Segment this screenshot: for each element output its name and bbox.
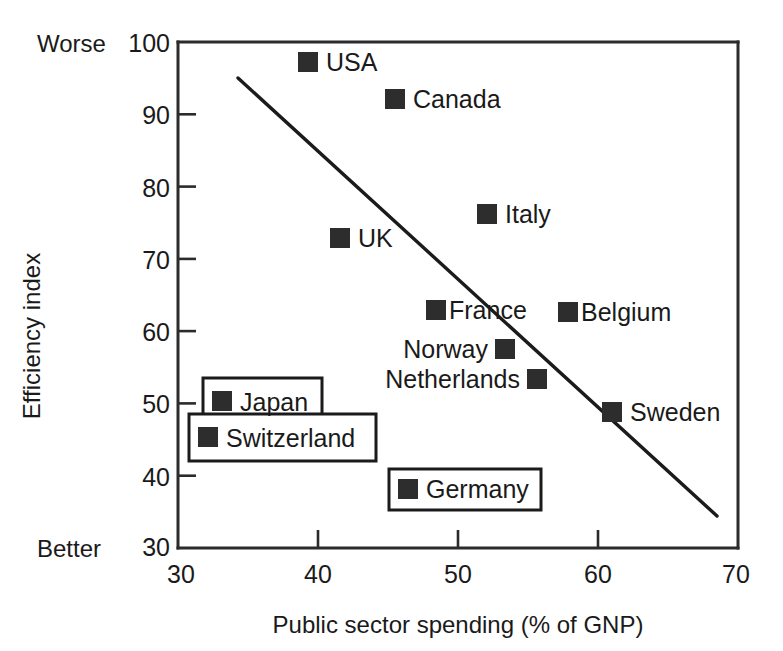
point-label-switzerland: Switzerland <box>226 424 355 452</box>
marker-usa[interactable] <box>298 52 318 72</box>
x-tick-label-50: 50 <box>444 560 472 588</box>
x-axis-tick-labels: 30 40 50 60 70 <box>167 560 750 588</box>
axis-annotation-worse: Worse <box>37 30 106 57</box>
data-point-uk[interactable]: UK <box>330 224 393 252</box>
point-label-usa: USA <box>326 48 378 76</box>
efficiency-vs-spending-chart: 100 90 80 70 60 50 40 30 30 40 50 60 70 … <box>0 0 783 651</box>
x-axis-title: Public sector spending (% of GNP) <box>273 611 644 638</box>
y-axis-title: Efficiency index <box>18 253 45 419</box>
x-tick-label-30: 30 <box>167 560 195 588</box>
data-point-netherlands[interactable]: Netherlands <box>385 365 547 393</box>
data-points: USA Canada Italy UK France Belgium <box>198 48 720 503</box>
marker-norway[interactable] <box>495 339 515 359</box>
marker-belgium[interactable] <box>558 302 578 322</box>
y-tick-label-90: 90 <box>142 101 170 129</box>
y-tick-label-100: 100 <box>128 29 170 57</box>
marker-japan[interactable] <box>212 391 232 411</box>
marker-uk[interactable] <box>330 228 350 248</box>
point-label-norway: Norway <box>403 335 488 363</box>
y-tick-label-50: 50 <box>142 390 170 418</box>
scatter-plot-svg: 100 90 80 70 60 50 40 30 30 40 50 60 70 … <box>0 0 783 651</box>
marker-canada[interactable] <box>385 89 405 109</box>
point-label-netherlands: Netherlands <box>385 365 520 393</box>
data-point-belgium[interactable]: Belgium <box>558 298 671 326</box>
point-label-japan: Japan <box>240 388 308 416</box>
y-tick-label-30: 30 <box>142 533 170 561</box>
x-tick-label-70: 70 <box>722 560 750 588</box>
point-label-uk: UK <box>358 224 393 252</box>
data-point-usa[interactable]: USA <box>298 48 378 76</box>
marker-italy[interactable] <box>477 204 497 224</box>
marker-switzerland[interactable] <box>198 427 218 447</box>
point-label-italy: Italy <box>505 200 551 228</box>
data-point-france[interactable]: France <box>426 296 527 324</box>
y-tick-label-40: 40 <box>142 463 170 491</box>
data-point-canada[interactable]: Canada <box>385 85 501 113</box>
marker-germany[interactable] <box>398 479 418 499</box>
data-point-sweden[interactable]: Sweden <box>602 398 720 426</box>
x-tick-label-60: 60 <box>584 560 612 588</box>
x-tick-label-40: 40 <box>304 560 332 588</box>
point-label-sweden: Sweden <box>630 398 720 426</box>
point-label-france: France <box>449 296 527 324</box>
point-label-germany: Germany <box>426 475 529 503</box>
marker-netherlands[interactable] <box>527 369 547 389</box>
x-axis-ticks <box>318 530 598 548</box>
y-tick-label-80: 80 <box>142 174 170 202</box>
data-point-germany[interactable]: Germany <box>398 475 529 503</box>
y-tick-label-60: 60 <box>142 318 170 346</box>
data-point-norway[interactable]: Norway <box>403 335 515 363</box>
point-label-canada: Canada <box>413 85 501 113</box>
y-axis-tick-labels: 100 90 80 70 60 50 40 30 <box>128 29 170 561</box>
data-point-italy[interactable]: Italy <box>477 200 551 228</box>
point-label-belgium: Belgium <box>581 298 671 326</box>
y-tick-label-70: 70 <box>142 246 170 274</box>
marker-sweden[interactable] <box>602 402 622 422</box>
axis-annotation-better: Better <box>37 535 101 562</box>
marker-france[interactable] <box>426 300 446 320</box>
